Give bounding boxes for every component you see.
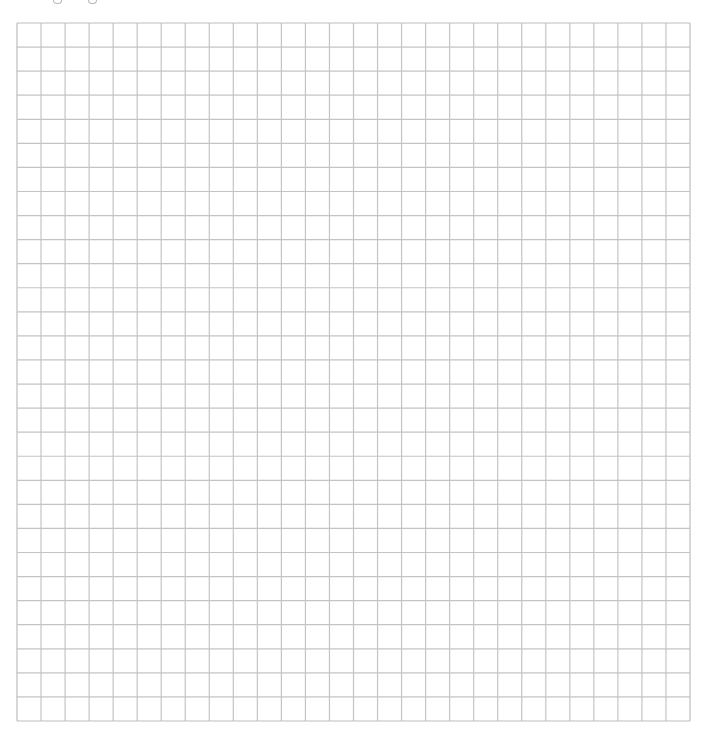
clipped-text-fragment: [53, 0, 62, 4]
grid-lines: [17, 23, 690, 721]
graph-paper-grid: [17, 23, 690, 721]
clipped-text-fragment: [88, 0, 97, 4]
